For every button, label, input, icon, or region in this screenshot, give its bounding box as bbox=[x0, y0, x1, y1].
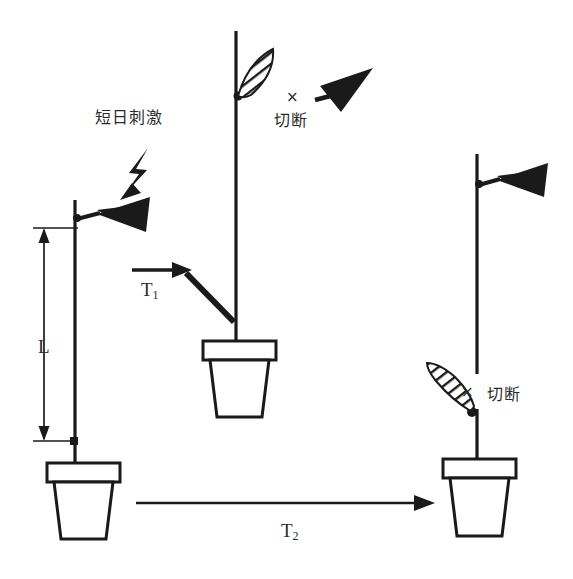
diagram-canvas bbox=[0, 0, 573, 579]
dimension-arrowhead-down bbox=[39, 426, 50, 441]
right-plant-group bbox=[427, 154, 548, 536]
label-cut-right: 切断 bbox=[487, 387, 521, 403]
arrow-t2 bbox=[136, 495, 435, 511]
middle-plant-group bbox=[186, 31, 276, 417]
middle-plant-hatched-leaf bbox=[238, 49, 273, 97]
left-plant-group bbox=[33, 197, 150, 539]
label-time-t1: T1 bbox=[141, 280, 159, 301]
middle-plant-pot-body bbox=[210, 360, 269, 417]
middle-plant-grafted-scion bbox=[186, 273, 234, 322]
label-length-L: L bbox=[38, 337, 50, 356]
right-plant-pot-rim bbox=[443, 459, 516, 478]
dimension-arrowhead-up bbox=[39, 228, 50, 243]
t2-subscript: 2 bbox=[293, 529, 299, 543]
left-plant-black-leaf bbox=[97, 197, 150, 232]
lightning-bolt-icon bbox=[120, 148, 148, 200]
t1-base: T bbox=[141, 279, 153, 300]
left-plant-pot-body bbox=[54, 482, 113, 539]
label-cut-middle: 切断 bbox=[274, 113, 308, 129]
cut-arrow-middle bbox=[315, 68, 373, 112]
plant-physiology-diagram: 短日刺激 × 切断 L T1 T2 × 切断 bbox=[0, 0, 573, 579]
right-plant-pot-body bbox=[450, 478, 509, 536]
middle-plant-pot-rim bbox=[203, 341, 276, 360]
t1-subscript: 1 bbox=[153, 288, 159, 302]
x-mark-right: × bbox=[461, 385, 474, 400]
x-mark-middle: × bbox=[286, 90, 299, 105]
label-short-day-stimulus: 短日刺激 bbox=[95, 110, 163, 126]
left-plant-pot-rim bbox=[47, 463, 120, 482]
label-time-t2: T2 bbox=[281, 521, 299, 542]
arrow-t1 bbox=[132, 262, 192, 278]
t2-base: T bbox=[281, 520, 293, 541]
